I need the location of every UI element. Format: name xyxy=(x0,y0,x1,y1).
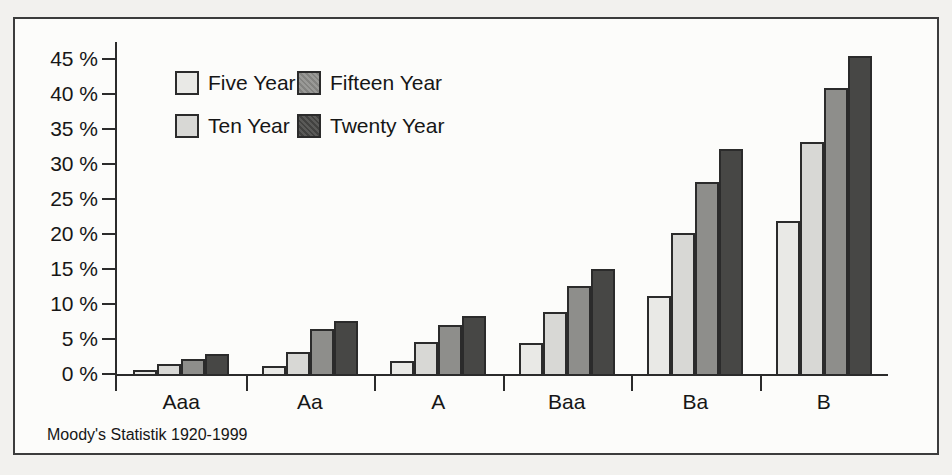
x-category-label-b: B xyxy=(760,389,889,415)
y-axis-tick xyxy=(102,233,115,235)
legend-swatch-five-year xyxy=(175,71,199,95)
bar-baa-fifteen-year xyxy=(567,286,591,374)
bar-a-twenty-year xyxy=(462,316,486,374)
x-category-label-a: A xyxy=(374,389,503,415)
legend-label-fifteen-year: Fifteen Year xyxy=(330,71,442,95)
bar-aaa-fifteen-year xyxy=(181,359,205,374)
bar-a-five-year xyxy=(390,361,414,374)
bar-baa-ten-year xyxy=(543,312,567,374)
y-tick-label-30-: 30 % xyxy=(30,151,98,177)
x-category-label-aaa: Aaa xyxy=(117,389,246,415)
chart-legend: Five YearFifteen YearTen YearTwenty Year xyxy=(175,71,444,157)
bar-baa-twenty-year xyxy=(591,269,615,374)
bar-baa-five-year xyxy=(519,343,543,374)
bar-a-ten-year xyxy=(414,342,438,374)
legend-label-ten-year: Ten Year xyxy=(208,114,290,138)
y-axis-tick xyxy=(102,93,115,95)
y-tick-label-15-: 15 % xyxy=(30,256,98,282)
y-tick-label-20-: 20 % xyxy=(30,221,98,247)
bar-aaa-twenty-year xyxy=(205,354,229,374)
y-tick-label-45-: 45 % xyxy=(30,46,98,72)
bar-aa-fifteen-year xyxy=(310,329,334,374)
bar-ba-twenty-year xyxy=(719,149,743,374)
y-axis-tick xyxy=(102,163,115,165)
bar-b-five-year xyxy=(776,221,800,374)
legend-swatch-ten-year xyxy=(175,114,199,138)
y-tick-label-5-: 5 % xyxy=(30,326,98,352)
bar-a-fifteen-year xyxy=(438,325,462,374)
legend-item-fifteen-year: Fifteen Year xyxy=(297,71,442,95)
y-tick-label-10-: 10 % xyxy=(30,291,98,317)
legend-row: Five YearFifteen Year xyxy=(175,71,444,95)
x-axis-line xyxy=(116,374,888,376)
y-axis-line xyxy=(115,42,117,391)
y-tick-label-40-: 40 % xyxy=(30,81,98,107)
figure-scan: 0 %5 %10 %15 %20 %25 %30 %35 %40 %45 %Aa… xyxy=(0,0,952,475)
legend-swatch-twenty-year xyxy=(297,114,321,138)
source-note: Moody's Statistik 1920-1999 xyxy=(47,425,248,445)
bar-aaa-five-year xyxy=(133,370,157,374)
legend-swatch-fifteen-year xyxy=(297,71,321,95)
legend-item-ten-year: Ten Year xyxy=(175,114,297,138)
legend-label-five-year: Five Year xyxy=(208,71,296,95)
y-axis-tick xyxy=(102,58,115,60)
bar-b-ten-year xyxy=(800,142,824,374)
bar-aaa-ten-year xyxy=(157,364,181,374)
bar-b-fifteen-year xyxy=(824,88,848,374)
bar-ba-five-year xyxy=(647,296,671,374)
y-axis-tick xyxy=(102,268,115,270)
bar-b-twenty-year xyxy=(848,56,872,374)
bar-ba-ten-year xyxy=(671,233,695,374)
legend-row: Ten YearTwenty Year xyxy=(175,114,444,138)
y-axis-tick xyxy=(102,198,115,200)
y-tick-label-0-: 0 % xyxy=(30,361,98,387)
y-tick-label-35-: 35 % xyxy=(30,116,98,142)
x-category-label-aa: Aa xyxy=(246,389,375,415)
bar-ba-fifteen-year xyxy=(695,182,719,374)
y-tick-label-25-: 25 % xyxy=(30,186,98,212)
y-axis-tick xyxy=(102,338,115,340)
x-category-label-baa: Baa xyxy=(503,389,632,415)
legend-item-five-year: Five Year xyxy=(175,71,297,95)
x-category-label-ba: Ba xyxy=(631,389,760,415)
bar-aa-ten-year xyxy=(286,352,310,374)
legend-item-twenty-year: Twenty Year xyxy=(297,114,444,138)
y-axis-tick xyxy=(102,128,115,130)
y-axis-tick xyxy=(102,303,115,305)
bar-aa-twenty-year xyxy=(334,321,358,374)
y-axis-tick xyxy=(102,373,115,375)
bar-aa-five-year xyxy=(262,366,286,374)
legend-label-twenty-year: Twenty Year xyxy=(330,114,444,138)
